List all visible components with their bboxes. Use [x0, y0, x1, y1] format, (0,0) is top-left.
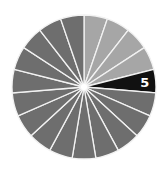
slice-label: 5 — [140, 75, 149, 90]
pie-wheel: 5 — [0, 0, 168, 171]
center-hub — [81, 84, 87, 90]
slices — [12, 15, 156, 159]
slice-labels: 5 — [140, 75, 149, 90]
